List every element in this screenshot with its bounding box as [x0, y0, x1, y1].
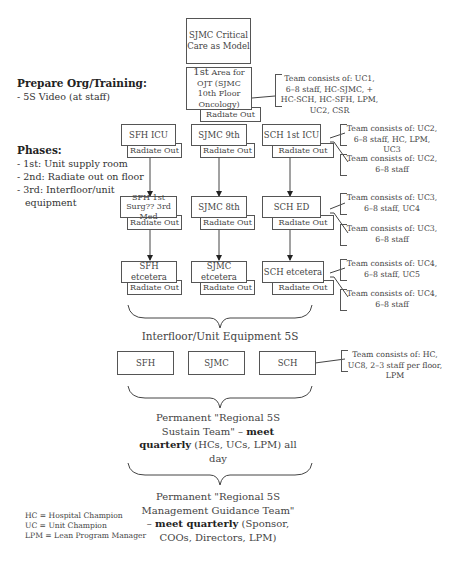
- unit-label: SCH 1st ICU: [264, 130, 319, 141]
- ojt-team-text: Team consists of: UC1, 6–8 staff, HC-SJM…: [281, 74, 378, 115]
- radiate-label: Radiate Out: [203, 218, 252, 227]
- unit-label: SFH 1st Surg?? 3rd Med: [121, 193, 176, 222]
- team-text: Team consists of: UC4, 6–8 staff: [347, 289, 438, 309]
- unit-label: SCH ED: [274, 202, 309, 213]
- unit-box: SFH etcetera: [121, 261, 177, 283]
- phases-heading: Phases:: [17, 144, 62, 156]
- equipment-team-note: Team consists of: HC, UC8, 2–3 staff per…: [341, 350, 445, 372]
- team-text: Team consists of: HC, UC8, 2–3 staff per…: [348, 350, 442, 380]
- team-note: Team consists of: UC2, 6–8 staff, HC, LP…: [340, 124, 440, 146]
- equipment-title: Interfloor/Unit Equipment 5S: [120, 330, 320, 344]
- equipment-label: SFH: [136, 358, 155, 369]
- prepare-heading: Prepare Org/Training:: [17, 77, 147, 89]
- radiate-label: Radiate Out: [130, 146, 179, 155]
- team-note: Team consists of: UC3, 6–8 staff, UC4: [340, 193, 440, 215]
- radiate-label: Radiate Out: [279, 146, 328, 155]
- radiate-label: Radiate Out: [279, 283, 328, 292]
- phase-item: - 1st: Unit supply room: [17, 157, 128, 170]
- unit-label: SCH etcetera: [264, 267, 322, 278]
- model-box: SJMC Critical Care as Model: [186, 18, 251, 64]
- team-note: Team consists of: UC4, 6–8 staff, UC5: [340, 259, 440, 281]
- unit-box: SFH ICU: [121, 124, 176, 146]
- ojt-box: 1st Area for OJT (SJMC 10th Floor Oncolo…: [186, 67, 252, 110]
- unit-box: SCH 1st ICU: [262, 124, 321, 146]
- team-text: Team consists of: UC3, 6–8 staff, UC4: [347, 193, 438, 213]
- unit-label: SFH etcetera: [122, 261, 176, 283]
- team-note: Team consists of: UC2, 6–8 staff: [340, 154, 440, 176]
- phase-item: - 3rd: Interfloor/unit: [17, 183, 115, 196]
- equipment-box: SCH: [259, 351, 316, 375]
- legend: HC = Hospital Champion UC = Unit Champio…: [25, 511, 146, 541]
- unit-label: SJMC 8th: [198, 202, 239, 213]
- sustain-post: (HCs, UCs, LPM) all day: [191, 439, 297, 464]
- equipment-box: SJMC: [188, 351, 245, 375]
- unit-box: SCH ED: [262, 196, 321, 218]
- phase-item: - 2nd: Radiate out on floor: [17, 170, 144, 183]
- team-text: Team consists of: UC2, 6–8 staff, HC, LP…: [347, 124, 438, 154]
- team-text: Team consists of: UC4, 6–8 staff, UC5: [347, 259, 438, 279]
- unit-box: SJMC 8th: [191, 196, 247, 218]
- prepare-item: - 5S Video (at staff): [17, 90, 110, 103]
- sustain-team-text: Permanent "Regional 5S Sustain Team" – m…: [138, 411, 298, 465]
- unit-label: SFH ICU: [129, 130, 168, 141]
- guidance-team-text: Permanent "Regional 5S Management Guidan…: [138, 490, 298, 544]
- legend-item: HC = Hospital Champion: [25, 511, 146, 521]
- equipment-label: SCH: [278, 358, 298, 369]
- equipment-box: SFH: [117, 351, 174, 375]
- radiate-label: Radiate Out: [206, 110, 255, 119]
- legend-item: UC = Unit Champion: [25, 521, 146, 531]
- radiate-label: Radiate Out: [130, 283, 179, 292]
- ojt-ordinal: 1st: [193, 66, 209, 77]
- unit-box: SJMC 9th: [191, 124, 247, 146]
- guidance-bold: meet quarterly: [155, 518, 238, 529]
- radiate-label: Radiate Out: [203, 146, 252, 155]
- unit-label: SJMC 9th: [198, 130, 239, 141]
- radiate-label: Radiate Out: [203, 283, 252, 292]
- unit-box: SFH 1st Surg?? 3rd Med: [120, 196, 177, 218]
- phase-item: equipment: [25, 196, 77, 209]
- unit-box: SCH etcetera: [262, 261, 324, 283]
- ojt-box-label: 1st Area for OJT (SJMC 10th Floor Oncolo…: [187, 67, 251, 110]
- ojt-team-note: Team consists of: UC1, 6–8 staff, HC-SJM…: [275, 74, 380, 107]
- legend-item: LPM = Lean Program Manager: [25, 531, 146, 541]
- model-box-label: SJMC Critical Care as Model: [187, 30, 250, 52]
- team-note: Team consists of: UC3, 6–8 staff: [340, 224, 440, 246]
- unit-box: SJMC etcetera: [191, 261, 247, 283]
- equipment-label: SJMC: [204, 358, 228, 369]
- team-text: Team consists of: UC2, 6–8 staff: [347, 154, 438, 174]
- unit-label: SJMC etcetera: [192, 261, 246, 283]
- team-note: Team consists of: UC4, 6–8 staff: [340, 289, 440, 311]
- radiate-label: Radiate Out: [279, 218, 328, 227]
- team-text: Team consists of: UC3, 6–8 staff: [347, 224, 438, 244]
